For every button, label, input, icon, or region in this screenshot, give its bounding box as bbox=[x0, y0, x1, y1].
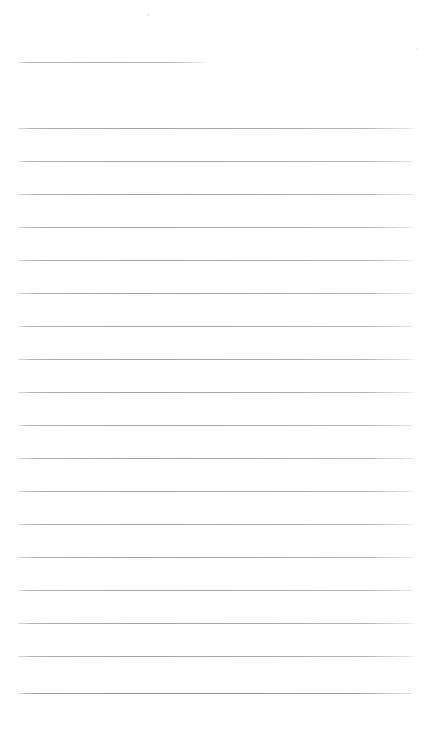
scan-speck bbox=[416, 48, 418, 50]
scan-speck bbox=[147, 13, 150, 16]
scanned-page: Blank Lined Page bbox=[0, 0, 429, 739]
writing-area[interactable] bbox=[18, 40, 413, 705]
